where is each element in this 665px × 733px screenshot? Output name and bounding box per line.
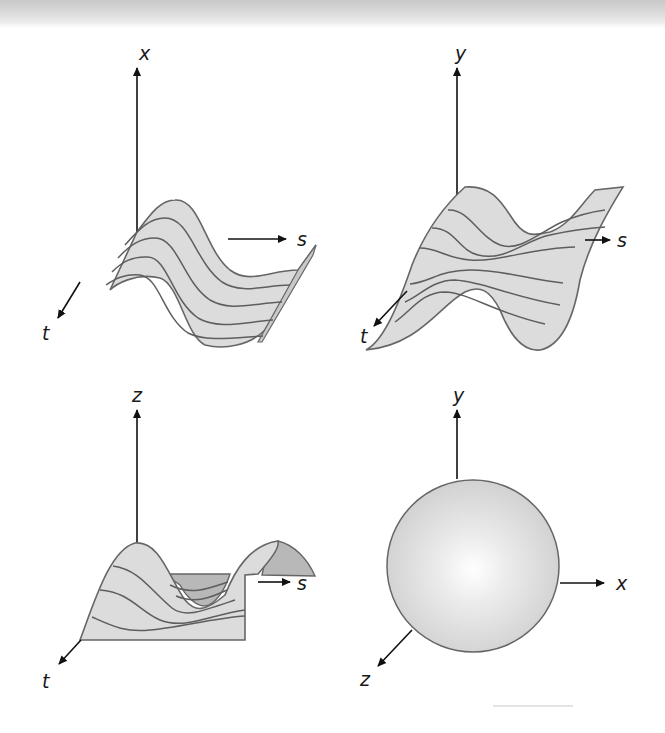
axis-label-s: s	[297, 228, 307, 250]
axis-t-depth	[58, 282, 80, 318]
surface-wavy	[366, 187, 623, 350]
axis-label-y: y	[454, 42, 467, 64]
parametric-surfaces-figure: x s t y s t z	[0, 0, 665, 733]
axis-z-depth	[378, 630, 412, 666]
panel-bottom-left: z s t	[42, 384, 315, 692]
sphere	[387, 480, 559, 652]
axis-label-z: z	[359, 668, 371, 690]
axis-label-s: s	[297, 572, 307, 594]
axis-label-t: t	[42, 670, 51, 692]
axis-label-t: t	[42, 322, 51, 344]
axis-label-t: t	[360, 325, 369, 347]
axis-label-z: z	[131, 384, 143, 406]
panel-top-left: x s t	[42, 42, 316, 347]
panel-bottom-right: y x z	[359, 384, 628, 706]
panel-top-right: y s t	[360, 42, 627, 350]
axis-t-depth	[59, 640, 81, 664]
axis-label-x: x	[138, 42, 151, 64]
axis-label-s: s	[617, 229, 627, 251]
axis-label-x: x	[615, 572, 628, 594]
axis-label-y: y	[452, 384, 465, 406]
